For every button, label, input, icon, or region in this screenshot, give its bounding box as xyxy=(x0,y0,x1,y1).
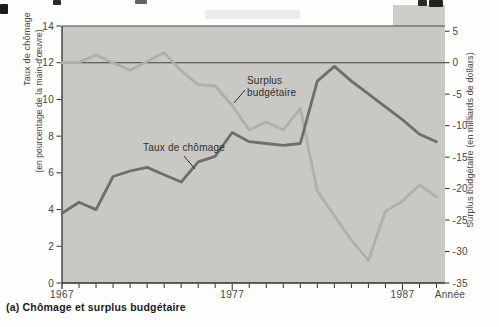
right-tick-label: -35 xyxy=(453,278,468,289)
right-tick-label: 0 xyxy=(453,57,459,68)
right-axis-title: Surplus budgétaire (en milliards de doll… xyxy=(465,52,475,227)
right-tick-label: -5 xyxy=(453,89,463,100)
dual-axis-line-chart: 0246810121450-5-10-15-20-25-30-351967197… xyxy=(0,0,499,327)
annotation-label: Taux de chômage xyxy=(143,142,225,153)
left-tick-label: 10 xyxy=(42,94,54,105)
scan-artifact xyxy=(135,0,147,4)
scan-artifact xyxy=(205,10,300,19)
left-tick-label: 6 xyxy=(48,167,54,178)
left-axis-subtitle: (en pourcentage de la main-d'œuvre) xyxy=(34,29,44,173)
x-tick-label: 1977 xyxy=(220,289,244,300)
annotation-label: Surplus xyxy=(247,75,282,86)
figure-caption: (a) Chômage et surplus budgétaire xyxy=(6,301,186,313)
left-tick-label: 0 xyxy=(48,278,54,289)
x-axis-title: Année xyxy=(435,289,466,300)
left-tick-label: 14 xyxy=(42,21,54,32)
scan-artifact xyxy=(0,4,8,14)
figure-panel: 0246810121450-5-10-15-20-25-30-351967197… xyxy=(0,0,499,327)
annotation-label: budgétaire xyxy=(247,87,296,98)
left-tick-label: 8 xyxy=(48,131,54,142)
x-tick-label: 1987 xyxy=(391,289,415,300)
right-tick-label: -30 xyxy=(453,246,468,257)
scan-artifact xyxy=(53,0,61,5)
left-tick-label: 4 xyxy=(48,204,54,215)
scan-artifact xyxy=(418,0,427,6)
x-tick-label: 1967 xyxy=(50,289,74,300)
left-tick-label: 2 xyxy=(48,241,54,252)
right-tick-label: 5 xyxy=(453,26,459,37)
scan-artifact xyxy=(429,0,443,7)
scan-artifact xyxy=(393,5,445,26)
left-tick-label: 12 xyxy=(42,57,54,68)
left-axis-title: Taux de chômage xyxy=(22,12,32,86)
